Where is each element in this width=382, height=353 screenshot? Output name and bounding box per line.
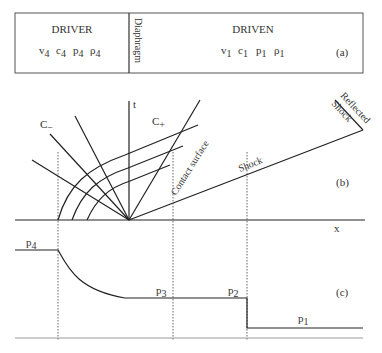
- fan-line-2: [50, 134, 129, 220]
- svg-text:v4: v4: [39, 44, 50, 59]
- contact-surface-label: Contact surface: [168, 138, 211, 197]
- panel-b-tag: (b): [336, 176, 349, 189]
- svg-text:ρ4: ρ4: [90, 44, 101, 59]
- shock-tube-diagram: DRIVER v4 c4 p4 ρ4 Diaphragm DRIVEN v1 c…: [0, 0, 382, 353]
- tube-box: [15, 13, 363, 73]
- svg-text:p4: p4: [73, 44, 84, 59]
- panel-c-tag: (c): [336, 286, 349, 299]
- shock-line: [129, 130, 363, 220]
- t-axis-label: t: [133, 98, 136, 110]
- fan-line-3: [75, 116, 129, 220]
- shock-label: Shock: [237, 154, 264, 174]
- driven-title: DRIVEN: [232, 23, 274, 35]
- driver-vars: v4 c4 p4 ρ4: [39, 44, 101, 59]
- driven-vars: v1 c1 p1 ρ1: [221, 44, 285, 59]
- svg-text:p1: p1: [256, 44, 267, 59]
- p4-label: p4: [26, 236, 37, 251]
- svg-text:c1: c1: [238, 44, 248, 59]
- driver-title: DRIVER: [52, 23, 94, 35]
- svg-text:ρ1: ρ1: [274, 44, 285, 59]
- c-plus-label: C+: [152, 115, 165, 130]
- p1-label: p1: [298, 312, 309, 327]
- c-minus-label: C−: [40, 118, 53, 133]
- p3-label: p3: [156, 284, 167, 299]
- x-axis-label: x: [334, 222, 340, 234]
- svg-text:v1: v1: [221, 44, 232, 59]
- p2-label: p2: [228, 284, 239, 299]
- diaphragm-label: Diaphragm: [133, 18, 144, 63]
- pressure-profile: [15, 250, 363, 328]
- fan-line-1: [32, 160, 129, 220]
- panel-a-tag: (a): [336, 46, 349, 59]
- svg-text:c4: c4: [56, 44, 66, 59]
